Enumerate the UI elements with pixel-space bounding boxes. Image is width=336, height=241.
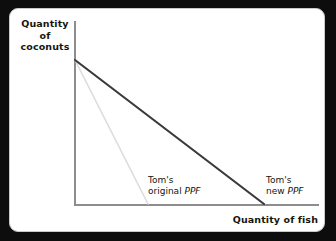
new-ppf-label: Tom's new PPF [266, 175, 304, 197]
new-ppf-label-prefix: new [266, 186, 287, 196]
original-ppf-line [75, 60, 148, 204]
original-ppf-label-italic: PPF [185, 186, 201, 196]
new-ppf-label-line2: new PPF [266, 186, 304, 197]
figure-panel: Quantity of coconuts Quantity of fish To… [9, 8, 325, 232]
figure-screenshot: Quantity of coconuts Quantity of fish To… [0, 0, 336, 241]
new-ppf-label-italic: PPF [287, 186, 303, 196]
original-ppf-label: Tom's original PPF [148, 175, 201, 197]
new-ppf-label-line1: Tom's [266, 175, 304, 186]
y-axis-title-line2: of coconuts [18, 30, 72, 53]
y-axis-title-line1: Quantity [18, 18, 72, 30]
original-ppf-label-line1: Tom's [148, 175, 201, 186]
x-axis-title: Quantity of fish [220, 214, 318, 226]
y-axis-title: Quantity of coconuts [18, 18, 72, 53]
original-ppf-label-line2: original PPF [148, 186, 201, 197]
original-ppf-label-prefix: original [148, 186, 185, 196]
